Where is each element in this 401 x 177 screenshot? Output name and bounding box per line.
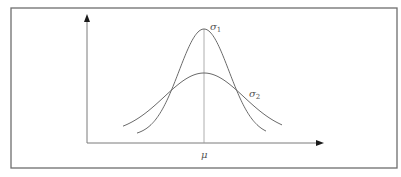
sigma2-label: σ2 — [249, 88, 260, 101]
sigma1-label: σ1 — [210, 21, 221, 34]
normal-distribution-diagram: σ1 σ2 μ — [0, 0, 401, 177]
y-axis-arrow-icon — [84, 14, 90, 22]
narrow-curve-sigma1 — [137, 29, 266, 133]
x-axis-arrow-icon — [316, 140, 324, 146]
mean-label: μ — [201, 149, 208, 160]
